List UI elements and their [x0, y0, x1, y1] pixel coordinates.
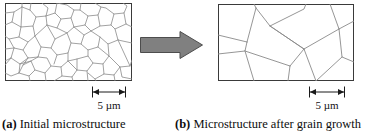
grain-growth-figure: 5 µm 5 µm (a) Initial microstructure (b)…: [0, 0, 385, 134]
caption-a-tag: (a): [2, 117, 17, 131]
scalebar-b-icon: [308, 86, 346, 98]
scalebar-panel-b: 5 µm: [308, 86, 346, 114]
caption-panel-a: (a) Initial microstructure: [2, 117, 126, 132]
panel-a-initial-microstructure: [5, 3, 132, 81]
scalebar-panel-a: 5 µm: [91, 86, 127, 114]
scalebar-a-label: 5 µm: [91, 99, 127, 112]
scalebar-a-icon: [91, 86, 127, 98]
panel-b-grown-microstructure: [218, 4, 354, 81]
caption-b-text: Microstructure after grain growth: [190, 117, 361, 131]
caption-panel-b: (b) Microstructure after grain growth: [175, 117, 361, 132]
arrow-right-icon: [140, 31, 203, 59]
scalebar-b-label: 5 µm: [308, 99, 346, 112]
caption-b-tag: (b): [175, 117, 190, 131]
grain-growth-arrow: [140, 31, 203, 59]
panel-b-grain-network: [218, 4, 354, 81]
caption-a-text: Initial microstructure: [17, 117, 126, 131]
panel-a-grain-network: [5, 3, 132, 81]
